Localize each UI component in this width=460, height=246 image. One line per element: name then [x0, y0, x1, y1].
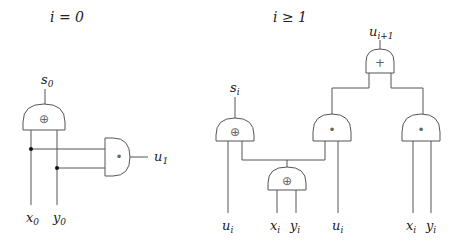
junction-dot — [55, 166, 59, 170]
label-s0: s0 — [41, 72, 54, 89]
xor-symbol: ⊕ — [39, 112, 49, 126]
label-xi: xi — [406, 218, 416, 235]
label-x0: x0 — [26, 210, 39, 227]
and-symbol: • — [328, 123, 335, 137]
xor-gate-sum: ⊕ — [216, 118, 254, 141]
or-symbol: + — [375, 56, 385, 70]
junction-dot — [29, 147, 33, 151]
wire-or-right — [391, 73, 423, 115]
and-gate-base: • — [105, 138, 130, 176]
xor-gate-inner: ⊕ — [268, 167, 306, 190]
label-xi: xi — [270, 218, 280, 235]
panel-title-base: i = 0 — [50, 9, 84, 25]
and-gate-carry: • — [313, 114, 351, 141]
label-u-i-plus-1: ui+1 — [369, 24, 394, 41]
panel-base-case: i = 0 s0 ⊕ • u1 x0 y0 — [23, 9, 168, 227]
label-yi: yi — [425, 218, 436, 235]
label-u1: u1 — [154, 149, 168, 166]
and-symbol: • — [417, 123, 424, 137]
panel-step-case: i ≥ 1 ui+1 + si ⊕ ⊕ • — [216, 9, 440, 235]
panel-title-step: i ≥ 1 — [273, 9, 307, 25]
wire-or-left — [332, 73, 369, 115]
label-si: si — [230, 80, 240, 97]
label-yi: yi — [289, 218, 300, 235]
label-ui: ui — [222, 218, 233, 235]
adder-circuit-diagram: i = 0 s0 ⊕ • u1 x0 y0 i ≥ 1 ui+1 — [0, 0, 460, 246]
and-symbol: • — [115, 150, 122, 164]
label-y0: y0 — [52, 210, 66, 227]
xor-symbol: ⊕ — [282, 174, 292, 188]
label-ui: ui — [332, 218, 343, 235]
wire-xor-bus — [242, 141, 325, 160]
or-gate: + — [366, 49, 394, 73]
xor-gate-base: ⊕ — [23, 104, 65, 130]
circuit-svg: i = 0 s0 ⊕ • u1 x0 y0 i ≥ 1 ui+1 — [0, 0, 460, 246]
xor-symbol: ⊕ — [230, 125, 240, 139]
and-gate-input: • — [402, 114, 440, 141]
